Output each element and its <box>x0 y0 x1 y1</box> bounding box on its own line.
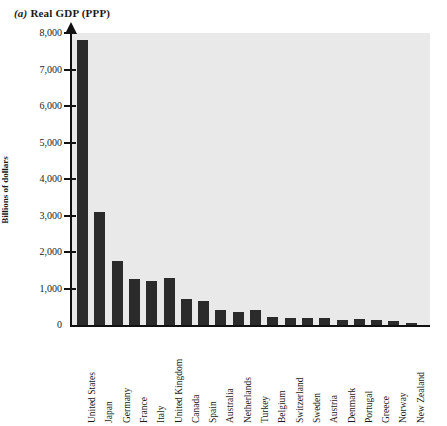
bar <box>94 212 105 325</box>
x-axis-tick-label: Japan <box>104 401 115 423</box>
x-axis-tick-label: Canada <box>191 395 202 424</box>
x-axis-tick-label: New Zealand <box>416 372 427 423</box>
x-axis-tick-label: United States <box>87 372 98 423</box>
x-axis-tick-label: Austria <box>329 395 340 423</box>
bar <box>181 299 192 325</box>
y-axis-tick <box>64 251 76 253</box>
y-axis-tick <box>64 215 76 217</box>
x-axis-tick-label: Italy <box>156 406 167 423</box>
x-axis-tick-label: Sweden <box>312 393 323 423</box>
bar <box>77 40 88 325</box>
bar <box>112 261 123 325</box>
x-axis-tick-label: Switzerland <box>295 378 306 423</box>
x-axis-tick-label: Norway <box>398 392 409 423</box>
bar <box>267 317 278 325</box>
x-axis-tick-label: Netherlands <box>243 377 254 423</box>
y-axis-tick-label: 1,000 <box>2 284 62 294</box>
y-axis-tick-label: 4,000 <box>2 174 62 184</box>
y-axis-tick-label: 5,000 <box>2 138 62 148</box>
x-axis-line <box>70 325 430 327</box>
y-axis-tick <box>64 288 76 290</box>
y-axis-tick-label: 3,000 <box>2 211 62 221</box>
y-axis-tick-label: 0 <box>2 320 62 330</box>
y-axis-tick-label: 7,000 <box>2 65 62 75</box>
bar <box>250 310 261 325</box>
bar-series <box>72 33 430 325</box>
bar <box>302 318 313 325</box>
x-axis-tick-label: Spain <box>208 401 219 423</box>
y-axis-tick <box>64 105 76 107</box>
x-axis-tick-label: Denmark <box>347 388 358 423</box>
bar <box>146 281 157 325</box>
y-axis-tick-label: 2,000 <box>2 247 62 257</box>
y-axis-tick-label: 6,000 <box>2 101 62 111</box>
bar <box>215 310 226 325</box>
y-axis-tick <box>64 32 76 34</box>
x-axis-tick-label: Turkey <box>260 396 271 423</box>
bar <box>198 301 209 325</box>
y-axis-tick <box>64 142 76 144</box>
y-axis-tick-label: 8,000 <box>2 28 62 38</box>
y-axis-tick <box>64 178 76 180</box>
bar <box>233 312 244 325</box>
x-axis-tick-label: Greece <box>381 396 392 423</box>
x-axis-tick-label: Germany <box>122 388 133 423</box>
x-axis-tick-label: United Kingdom <box>174 359 185 423</box>
bar <box>164 278 175 325</box>
x-axis-tick-label: Portugal <box>364 391 375 423</box>
bar <box>129 279 140 325</box>
y-axis-tick <box>64 69 76 71</box>
x-axis-tick-label: Belgium <box>277 390 288 423</box>
bar <box>285 318 296 325</box>
x-axis-tick-label: France <box>139 397 150 423</box>
x-axis-labels: United StatesJapanGermanyFranceItalyUnit… <box>72 329 430 426</box>
y-axis-ticks: 8,0007,0006,0005,0004,0003,0002,0001,000… <box>0 0 62 426</box>
x-axis-tick-label: Australia <box>225 388 236 423</box>
